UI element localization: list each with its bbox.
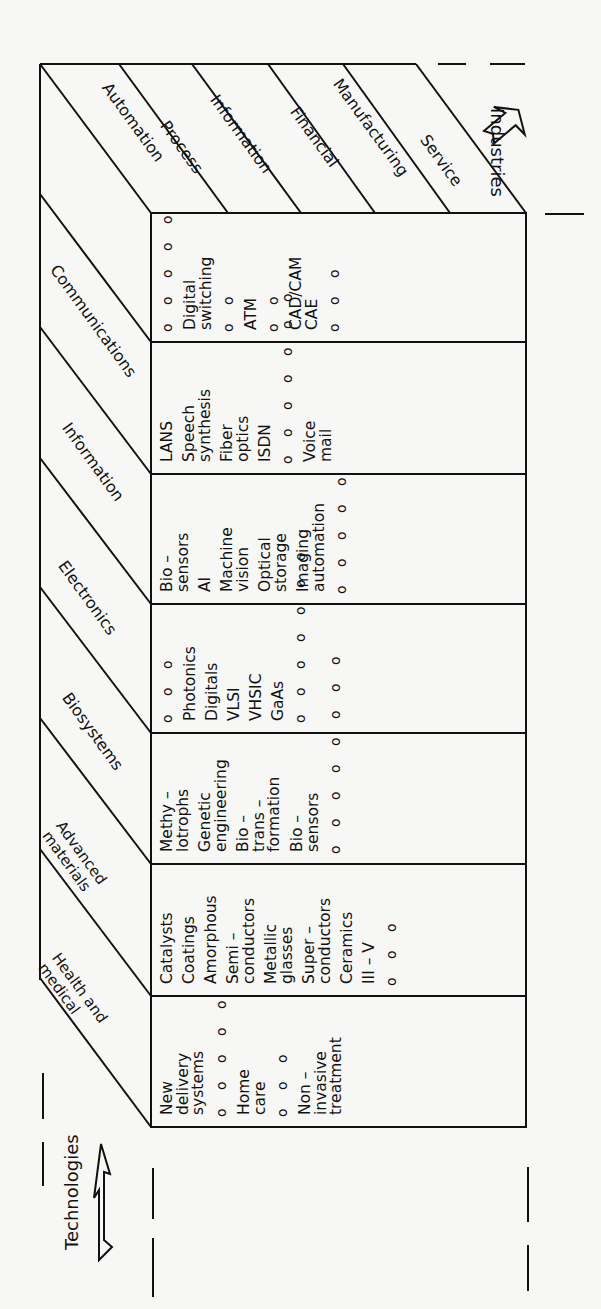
- technology-item: Digitals: [205, 663, 221, 721]
- technology-item: Bio – sensors: [160, 533, 191, 592]
- indicator-dots: o o o o o o o o: [328, 649, 342, 854]
- technology-item: Amorphous: [204, 895, 220, 984]
- indicator-dots: o o o o o o o: [293, 545, 307, 723]
- technology-item: Metallic glasses: [264, 924, 295, 984]
- technology-item: Methy – lotrophs: [160, 789, 191, 852]
- indicator-dots: o o: [266, 289, 280, 332]
- indicator-dots: o o o o o: [160, 208, 174, 332]
- technology-item: VHSIC: [249, 674, 265, 722]
- indicator-dots: o o o o o o o: [280, 286, 294, 464]
- technology-item: Non – invasive treatment: [298, 1037, 345, 1115]
- technology-item: Optical storage: [258, 533, 289, 592]
- technology-item: Machine vision: [220, 527, 251, 592]
- indicator-dots: o o o: [384, 916, 398, 986]
- technology-item: Speech synthesis: [182, 389, 213, 462]
- indicator-dots: o o: [221, 289, 235, 332]
- indicator-dots: o o o: [327, 262, 341, 332]
- technology-item: ISDN: [258, 424, 274, 462]
- technology-item: VLSI: [227, 687, 243, 721]
- technology-item: AI: [198, 577, 214, 592]
- technology-item: Genetic engineering: [198, 759, 229, 852]
- technology-item: III – V: [362, 942, 378, 984]
- indicator-dots: o o o: [275, 1047, 289, 1117]
- technology-item: Voice mail: [303, 421, 334, 462]
- indicator-dots: o o o: [160, 653, 174, 723]
- technology-item: Digital switching: [183, 257, 214, 330]
- technologies-arrow-icon: [94, 1144, 112, 1260]
- technologies-axis-label: Technologies: [63, 1134, 81, 1250]
- technology-item: GaAs: [271, 681, 287, 721]
- technology-item: Coatings: [182, 916, 198, 984]
- industries-axis-label: Industries: [488, 108, 506, 197]
- indicator-dots: o o o o o: [214, 993, 228, 1117]
- technology-item: Semi – conductors: [226, 898, 257, 984]
- technology-item: Ceramics: [340, 912, 356, 984]
- technology-item: Home care: [237, 1069, 268, 1115]
- technology-item: Bio – sensors: [290, 793, 321, 852]
- technology-item: Super – conductors: [302, 898, 333, 984]
- technology-item: LANS: [160, 421, 176, 462]
- technology-item: Photonics: [183, 646, 199, 721]
- technology-item: ATM: [244, 298, 260, 330]
- technology-item: New delivery systems: [160, 1051, 207, 1115]
- technology-item: Bio – trans – formation: [236, 777, 283, 852]
- technology-item: Catalysts: [160, 912, 176, 984]
- technology-item: Fiber optics: [220, 416, 251, 462]
- indicator-dots: o o o o o: [334, 470, 348, 594]
